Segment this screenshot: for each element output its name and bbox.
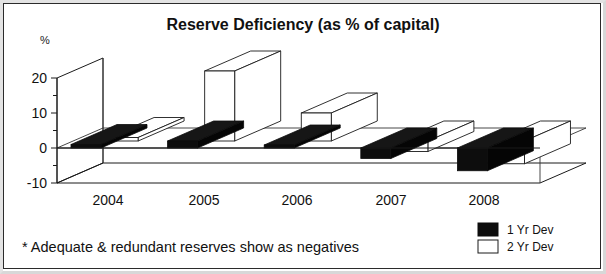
bar-2008-1-yr-dev (457, 128, 533, 171)
category-label-2005: 2005 (188, 192, 219, 208)
y-axis-unit-label: % (40, 34, 50, 46)
legend-label-2-yr-dev: 2 Yr Dev (507, 240, 553, 254)
y-axis-ticks (51, 78, 57, 183)
chart-footnote: * Adequate & redundant reserves show as … (22, 239, 359, 255)
legend-label-1-yr-dev: 1 Yr Dev (507, 223, 553, 237)
chart-title: Reserve Deficiency (as % of capital) (166, 16, 439, 33)
y-tick-label-0: 0 (39, 140, 47, 156)
category-label-2007: 2007 (375, 192, 406, 208)
category-label-2008: 2008 (468, 192, 499, 208)
legend-swatch-white-square-icon (478, 240, 498, 253)
legend-swatch-black-square-icon (478, 223, 498, 236)
y-tick-label-20: 20 (31, 70, 47, 86)
y-tick-label-10: 10 (31, 105, 47, 121)
y-axis-tick-labels: 20 10 0 -10 (27, 70, 47, 191)
category-label-2006: 2006 (281, 192, 312, 208)
y-tick-label-minus-10: -10 (27, 175, 47, 191)
chart-screenshot: Reserve Deficiency (as % of capital) % (0, 0, 606, 274)
bar-2007-1-yr-dev (361, 128, 437, 159)
chart-legend: 1 Yr Dev 2 Yr Dev (478, 223, 553, 254)
x-axis-category-labels: 2004 2005 2006 2007 2008 (92, 192, 499, 208)
bars-layer (71, 51, 570, 171)
reserve-deficiency-3d-bar-chart: Reserve Deficiency (as % of capital) % (0, 0, 606, 274)
category-label-2004: 2004 (92, 192, 123, 208)
